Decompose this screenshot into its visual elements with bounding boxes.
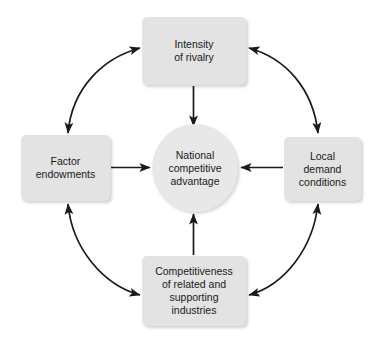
node-top-label: Intensity of rivalry bbox=[174, 38, 214, 64]
node-intensity-of-rivalry: Intensity of rivalry bbox=[142, 17, 246, 85]
node-national-competitive-advantage: National competitive advantage bbox=[152, 124, 238, 212]
node-bottom-label: Competitiveness of related and supportin… bbox=[155, 265, 233, 317]
connector-factor-related-arc bbox=[68, 204, 140, 295]
node-competitiveness-related-supporting-industries: Competitiveness of related and supportin… bbox=[142, 256, 246, 326]
node-center-label: National competitive advantage bbox=[168, 149, 221, 188]
connector-related-demand-arc bbox=[249, 204, 318, 295]
node-factor-endowments: Factor endowments bbox=[21, 135, 110, 201]
node-right-label: Local demand conditions bbox=[299, 150, 346, 189]
diagram-canvas: National competitive advantage Intensity… bbox=[0, 0, 381, 344]
node-local-demand-conditions: Local demand conditions bbox=[284, 137, 361, 201]
connector-factor-rivalry-arc bbox=[68, 48, 140, 133]
connector-rivalry-demand-arc bbox=[249, 48, 318, 133]
node-left-label: Factor endowments bbox=[36, 155, 96, 181]
